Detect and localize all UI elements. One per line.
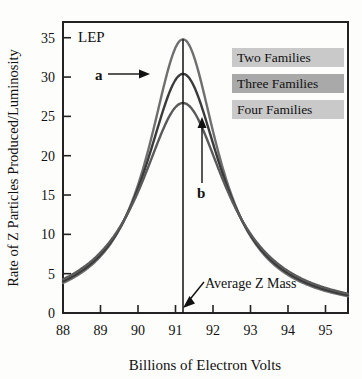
chart-figure: 05101520253035 8889909192939495 Two Fami… [0, 0, 362, 379]
x-axis-ticks: 8889909192939495 [56, 305, 333, 338]
y-tick-label: 5 [48, 267, 55, 282]
y-tick-label: 30 [41, 70, 55, 85]
x-tick-label: 90 [131, 323, 145, 338]
average-z-mass-pointer [183, 282, 204, 308]
chart-canvas: 05101520253035 8889909192939495 Two Fami… [0, 0, 362, 379]
x-tick-label: 92 [206, 323, 220, 338]
average-z-mass-label: Average Z Mass [205, 276, 297, 291]
curve-a-pointer [108, 70, 150, 79]
y-tick-label: 10 [41, 227, 55, 242]
legend: Two FamiliesThree FamiliesFour Families [232, 48, 344, 119]
x-tick-label: 88 [56, 323, 70, 338]
legend-label: Three Families [237, 76, 318, 91]
x-tick-label: 89 [94, 323, 108, 338]
curve-b-label: b [197, 185, 205, 201]
x-tick-label: 91 [169, 323, 183, 338]
legend-label: Two Families [237, 50, 311, 65]
y-tick-label: 20 [41, 149, 55, 164]
lep-label: LEP [78, 29, 105, 45]
x-axis-title: Billions of Electron Volts [129, 357, 282, 373]
curve-b-pointer [198, 117, 207, 183]
y-tick-label: 35 [41, 31, 55, 46]
y-axis-title: Rate of Z Particles Produced/Luminosity [5, 48, 21, 286]
curve-a-label: a [95, 67, 103, 83]
x-tick-label: 95 [319, 323, 333, 338]
series-curve [63, 103, 348, 294]
x-tick-label: 94 [281, 323, 295, 338]
legend-label: Four Families [237, 102, 312, 117]
y-tick-label: 15 [41, 188, 55, 203]
y-tick-label: 0 [48, 306, 55, 321]
y-tick-label: 25 [41, 109, 55, 124]
x-tick-label: 93 [244, 323, 258, 338]
